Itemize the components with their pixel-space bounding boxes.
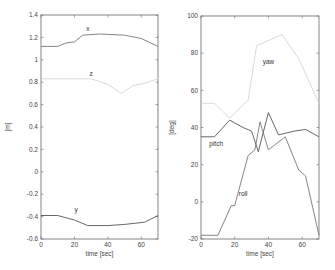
y-tick-label: 1.4 xyxy=(29,11,38,18)
y-tick-label: 0 xyxy=(34,168,38,175)
series-z-label: z xyxy=(90,70,93,77)
y-tick-label: 1.2 xyxy=(29,34,38,41)
y-tick-label: -0.6 xyxy=(27,235,39,242)
series-x-line xyxy=(41,34,158,46)
y-tick-label: 60 xyxy=(191,87,199,94)
y-tick-label: 80 xyxy=(191,49,199,56)
figure: 0204060-0.6-0.4-0.200.20.40.60.811.21.4t… xyxy=(0,0,335,270)
x-tick-label: 60 xyxy=(299,241,307,248)
series-y-label: y xyxy=(74,206,78,214)
series-roll-line xyxy=(201,122,319,235)
y-tick-label: 0.8 xyxy=(29,78,38,85)
x-axis-label: time [sec] xyxy=(86,250,114,258)
plot-area xyxy=(41,15,158,239)
y-tick-label: 100 xyxy=(187,12,198,19)
y-tick-label: 20 xyxy=(191,161,199,168)
x-tick-label: 0 xyxy=(199,241,203,248)
y-tick-label: -0.4 xyxy=(27,213,39,220)
series-yaw-label: yaw xyxy=(263,58,275,66)
x-axis-label: time [sec] xyxy=(246,250,274,258)
chart-1: 0204060-0.6-0.4-0.200.20.40.60.811.21.4t… xyxy=(4,11,158,258)
plot-area xyxy=(201,16,319,239)
series-pitch-label: pitch xyxy=(209,140,223,148)
series-roll-label: roll xyxy=(239,190,248,197)
x-tick-label: 0 xyxy=(39,241,43,248)
y-tick-label: 0.2 xyxy=(29,146,38,153)
y-tick-label: 1 xyxy=(34,56,38,63)
series-yaw-line xyxy=(201,35,319,119)
y-tick-label: 40 xyxy=(191,124,199,131)
series-z-line xyxy=(41,79,158,94)
x-tick-label: 20 xyxy=(71,241,79,248)
x-tick-label: 60 xyxy=(138,241,146,248)
series-y-line xyxy=(41,216,158,226)
series-x-label: x xyxy=(86,25,90,32)
chart-2: 0204060-20020406080100time [sec][deg]yaw… xyxy=(168,12,319,258)
y-tick-label: -0.2 xyxy=(27,190,39,197)
x-tick-label: 20 xyxy=(231,241,239,248)
y-tick-label: 0.4 xyxy=(29,123,38,130)
x-tick-label: 40 xyxy=(104,241,112,248)
y-axis-label: [m] xyxy=(4,122,12,131)
x-tick-label: 40 xyxy=(265,241,273,248)
y-axis-label: [deg] xyxy=(168,120,176,135)
y-tick-label: 0.6 xyxy=(29,101,38,108)
y-tick-label: -20 xyxy=(189,235,199,242)
y-tick-label: 0 xyxy=(194,198,198,205)
